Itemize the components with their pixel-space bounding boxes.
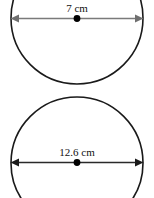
bottom-diameter-label: 12.6 cm [59,146,95,158]
top-diameter-label: 7 cm [66,2,88,14]
top-circle-group: 7 cm [11,0,144,84]
bottom-circle-center-dot [74,159,81,166]
bottom-circle-group: 12.6 cm [11,97,144,198]
figure-canvas: 7 cm 12.6 cm [0,0,154,198]
geometry-diagram: 7 cm 12.6 cm [0,0,154,198]
top-circle-center-dot [74,15,81,22]
